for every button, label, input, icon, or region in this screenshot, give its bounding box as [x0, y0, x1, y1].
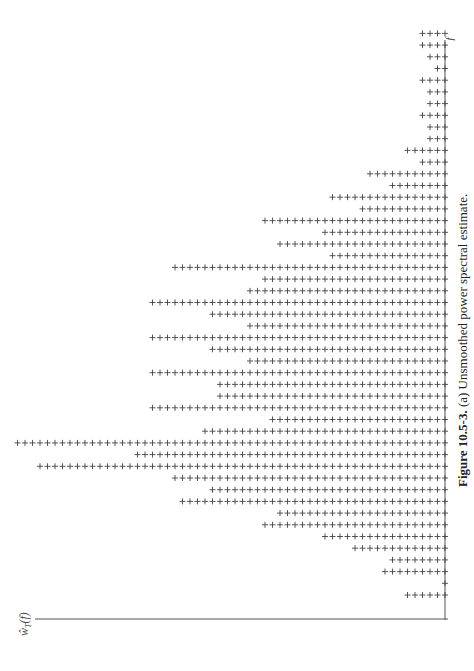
bar-row	[330, 253, 449, 259]
bar-row	[150, 370, 449, 376]
bar-row	[277, 241, 448, 247]
bar-row	[427, 124, 448, 130]
bar-row	[435, 66, 449, 72]
plus-mark-bars	[15, 30, 449, 598]
y-label-symbol: ŵ	[17, 628, 31, 636]
bar-row	[390, 557, 449, 563]
x-axis-label: f	[443, 37, 455, 40]
bar-row	[427, 101, 448, 107]
y-label-subscript: T	[24, 624, 33, 628]
bar-row	[262, 522, 448, 528]
bar-row	[150, 405, 449, 411]
bar-row	[322, 229, 448, 235]
bar-row	[217, 393, 448, 399]
axes	[35, 40, 448, 620]
bar-row	[405, 592, 449, 598]
bar-row	[427, 54, 448, 60]
figure-number: Figure 10.5-3.	[455, 410, 470, 487]
bar-row	[247, 323, 448, 329]
bar-row	[390, 183, 449, 189]
bar-row	[210, 487, 449, 493]
bar-row	[262, 276, 448, 282]
bar-row	[420, 159, 449, 165]
bar-row	[442, 580, 448, 586]
bar-row	[405, 147, 449, 153]
bar-row	[360, 206, 449, 212]
bar-row	[247, 358, 448, 364]
bar-row	[420, 77, 449, 83]
bar-row	[217, 381, 448, 387]
y-axis-label: ŵT(f)	[17, 612, 33, 636]
bar-row	[420, 42, 449, 48]
bar-row	[277, 510, 448, 516]
bar-row	[15, 440, 449, 446]
bar-row	[180, 498, 449, 504]
bar-row	[150, 300, 449, 306]
bar-row	[352, 545, 448, 551]
bar-row	[172, 475, 448, 481]
bar-row	[367, 171, 448, 177]
bar-row	[427, 136, 448, 142]
bar-row	[427, 89, 448, 95]
spectral-estimate-plot	[0, 0, 474, 671]
bar-row	[270, 417, 449, 423]
bar-row	[210, 311, 449, 317]
bar-row	[330, 194, 449, 200]
bar-row	[135, 452, 449, 458]
figure-caption: Figure 10.5-3. (a) Unsmoothed power spec…	[455, 194, 471, 487]
bar-row	[420, 30, 449, 36]
bar-row	[202, 428, 448, 434]
bar-row	[172, 264, 448, 270]
y-label-argument: (f)	[17, 612, 31, 623]
bar-row	[150, 335, 449, 341]
bar-row	[322, 534, 448, 540]
bar-row	[382, 569, 448, 575]
bar-row	[247, 288, 448, 294]
caption-text: (a) Unsmoothed power spectral estimate.	[455, 194, 470, 411]
bar-row	[262, 218, 448, 224]
bar-row	[37, 463, 448, 469]
bar-row	[210, 346, 449, 352]
bar-row	[420, 112, 449, 118]
